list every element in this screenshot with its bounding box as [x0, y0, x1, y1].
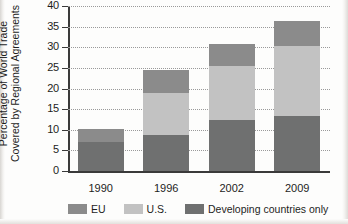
y-axis-title-line-2: Covered by Regional Agreements: [9, 5, 21, 162]
y-axis-tick-label: 10: [25, 123, 59, 135]
bar-segment: [143, 70, 189, 92]
legend-label: EU: [91, 203, 106, 215]
plot-area: 0510152025303540 1990199620022009: [68, 6, 330, 173]
y-axis-tick: [62, 150, 68, 151]
bar-segment: [209, 66, 255, 120]
bar-segment: [274, 116, 320, 171]
y-axis-tick: [62, 68, 68, 69]
legend-item: Developing countries only: [185, 203, 328, 215]
y-axis-tick: [62, 89, 68, 90]
y-axis-tick: [62, 130, 68, 131]
bar-segment: [209, 44, 255, 67]
y-axis-tick: [62, 171, 68, 172]
x-axis-tick-label: 2009: [267, 182, 327, 194]
bar-stack: [78, 129, 124, 171]
legend-item: EU: [68, 203, 106, 215]
x-axis-tick-label: 1996: [136, 182, 196, 194]
y-axis-tick-label: 0: [25, 164, 59, 176]
y-axis-tick: [62, 47, 68, 48]
y-axis-tick-label: 5: [25, 143, 59, 155]
y-axis-tick-label: 40: [25, 0, 59, 11]
y-axis-tick: [62, 109, 68, 110]
bar-segment: [78, 142, 124, 171]
y-axis-tick: [62, 27, 68, 28]
bar-segment: [209, 120, 255, 171]
chart-legend: EUU.S.Developing countries only: [68, 202, 330, 216]
x-axis-tick-label: 2002: [202, 182, 262, 194]
y-axis-tick-label: 20: [25, 82, 59, 94]
x-axis-line: [68, 171, 330, 173]
bar-stack: [143, 70, 189, 171]
gridline: [68, 6, 330, 8]
x-axis-tick-label: 1990: [71, 182, 131, 194]
bar-stack: [274, 21, 320, 171]
legend-swatch: [124, 204, 143, 214]
scan-edge-left: [0, 0, 5, 224]
bar-segment: [274, 21, 320, 47]
legend-label: Developing countries only: [208, 203, 328, 215]
y-axis-tick-label: 35: [25, 20, 59, 32]
y-axis-tick-label: 15: [25, 102, 59, 114]
scan-edge-bottom: [0, 219, 348, 224]
y-axis-tick-label: 25: [25, 61, 59, 73]
bar-segment: [143, 93, 189, 135]
bar-stack: [209, 44, 255, 171]
bar-segment: [78, 129, 124, 141]
bar-segment: [143, 135, 189, 171]
bar-segment: [274, 46, 320, 116]
y-axis-tick: [62, 6, 68, 7]
legend-swatch: [68, 204, 87, 214]
legend-label: U.S.: [147, 203, 167, 215]
legend-swatch: [185, 204, 204, 214]
legend-item: U.S.: [124, 203, 167, 215]
y-axis-tick-label: 30: [25, 40, 59, 52]
scan-edge-right: [342, 0, 348, 224]
chart-figure: Percentage of World Trade Covered by Reg…: [0, 0, 348, 224]
